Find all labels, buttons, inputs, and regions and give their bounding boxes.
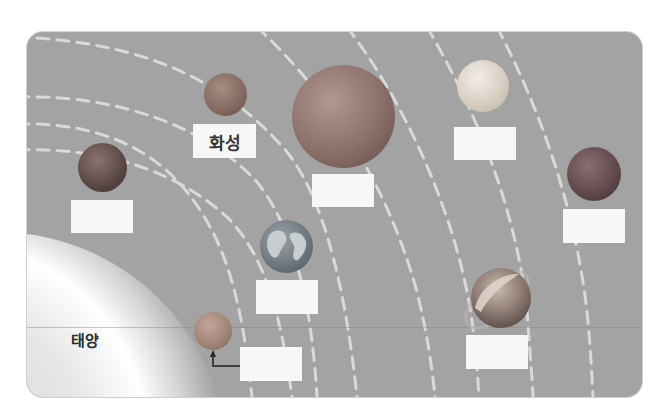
planet-saturn [457, 260, 537, 340]
planet-neptune [567, 147, 621, 201]
planet-jupiter [292, 65, 395, 168]
planet-mars [204, 73, 247, 116]
label-box-mars: 화성 [193, 124, 256, 158]
planet-uranus [457, 60, 509, 112]
divider-line [27, 327, 642, 328]
label-box-venus[interactable] [71, 200, 133, 233]
label-box-uranus[interactable] [454, 127, 516, 160]
label-box-mercury[interactable] [240, 347, 302, 381]
label-box-neptune[interactable] [563, 209, 625, 243]
arrow-line-horizontal [212, 365, 240, 367]
earth-continents [260, 220, 313, 273]
planet-earth [260, 220, 313, 273]
label-box-jupiter[interactable] [312, 174, 374, 207]
solar-system-diagram: 화성 태양 [27, 32, 642, 397]
sun-label: 태양 [71, 329, 99, 350]
label-box-saturn[interactable] [466, 335, 528, 369]
planet-venus [78, 143, 127, 192]
label-box-earth[interactable] [256, 280, 318, 314]
planet-mercury [194, 312, 232, 350]
